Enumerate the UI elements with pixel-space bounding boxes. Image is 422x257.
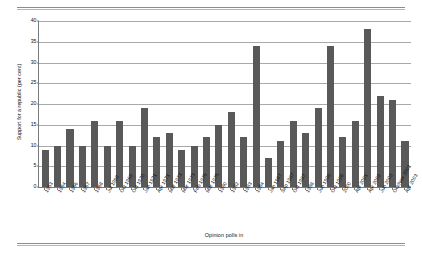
bar-slot [399,21,411,187]
bar-slot [250,21,262,187]
bar-slot [113,21,125,187]
chart-page: Support for a republic (per cent) 051015… [0,0,422,257]
x-label-slot: Mar 1973 [162,190,174,230]
bar [66,129,73,187]
y-tick-label-35: 35 [31,39,37,44]
x-label-slot: Jul 1969 [100,190,112,230]
x-label-slot: Jun 2002 [373,190,385,230]
bar-slot [39,21,51,187]
bar [228,112,235,187]
bottom-rule-decoration [17,243,405,246]
bar-slot [225,21,237,187]
bar-series [39,21,411,187]
x-label-slot: Oct 1969 [112,190,124,230]
x-axis-title: Opinion polls in [38,232,410,238]
bar-slot [51,21,63,187]
x-label-slot: Oct/Nov 2002 [385,190,397,230]
y-axis-title: Support for a republic (per cent) [16,32,22,172]
bar [327,46,334,187]
x-label-slot: Feb 1975 [187,190,199,230]
x-axis-tick-labels: 19531964196619671968Jul 1969Oct 1969Oct … [38,190,410,230]
bar [253,46,260,187]
bar-slot [238,21,250,187]
x-label-slot: 1964 [50,190,62,230]
x-label-slot: Jan 1971 [137,190,149,230]
y-tick-label-40: 40 [31,18,37,23]
x-label-slot: 1966 [63,190,75,230]
x-label-slot: 1967 [75,190,87,230]
x-label-slot: Sep 1987 [274,190,286,230]
y-tick-label-10: 10 [31,143,37,148]
x-label-slot: 1968 [88,190,100,230]
chart-figure: Support for a republic (per cent) 051015… [0,14,422,240]
bar [315,108,322,187]
bar-slot [126,21,138,187]
bar-slot [287,21,299,187]
bar-slot [349,21,361,187]
x-label-slot: Apr 2003 [398,190,410,230]
x-label-slot: 1984 [249,190,261,230]
x-label-slot: Oct 1996 [323,190,335,230]
x-label-slot: 1980 [212,190,224,230]
bar-slot [312,21,324,187]
x-label-slot: Jan 1987 [261,190,273,230]
x-label-slot: Mar 1975 [199,190,211,230]
bar-slot [89,21,101,187]
bar-slot [163,21,175,187]
y-tick-label-25: 25 [31,81,37,86]
y-tick-label-15: 15 [31,122,37,127]
top-rule-line-2 [17,9,405,10]
plot-area: 0510152025303540 [38,21,411,188]
x-label-slot: 2000 [336,190,348,230]
y-tick-label-20: 20 [31,101,37,106]
bar-slot [188,21,200,187]
bar-slot [300,21,312,187]
bar-slot [76,21,88,187]
bar-slot [138,21,150,187]
x-label-slot: 1988 [299,190,311,230]
x-label-slot: 1953 [38,190,50,230]
bar-slot [324,21,336,187]
bar-slot [386,21,398,187]
bottom-rule-line-2 [17,245,405,246]
bar-slot [362,21,374,187]
bar [91,121,98,187]
x-label-slot: Jun 1996 [311,190,323,230]
bar-slot [200,21,212,187]
bar-slot [101,21,113,187]
x-label-slot: Oct 1987 [286,190,298,230]
x-label-slot: 1982 [224,190,236,230]
top-rule-decoration [17,7,405,10]
x-label-slot: 1983 [237,190,249,230]
bar-slot [262,21,274,187]
bar-slot [175,21,187,187]
x-label-slot: Oct 1970 [125,190,137,230]
bar-slot [337,21,349,187]
x-label-slot: Mar 1973 [174,190,186,230]
bar [364,29,371,187]
bar-slot [151,21,163,187]
bar-slot [374,21,386,187]
bar [352,121,359,187]
x-label-slot: Apr 1971 [150,190,162,230]
bar [54,146,61,188]
x-label-slot: Apr 2002 [361,190,373,230]
bar-slot [275,21,287,187]
x-label-slot: Apr 2001 [348,190,360,230]
bar [240,137,247,187]
bar-slot [64,21,76,187]
y-tick-label-30: 30 [31,60,37,65]
bar-slot [213,21,225,187]
